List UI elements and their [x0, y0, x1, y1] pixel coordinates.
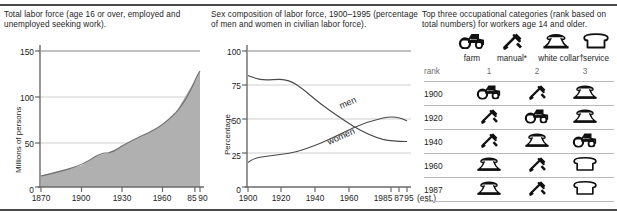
tractor-icon	[517, 108, 557, 128]
x-tick-95: 95	[400, 193, 418, 203]
sex-composition-chart: Percentage 100 75 50 25 0 men women	[211, 33, 419, 205]
occupations-row: 1960	[424, 154, 614, 178]
x-tick-1930: 1930	[107, 193, 137, 203]
occupations-legend-icons	[424, 30, 614, 54]
rank-number-2: 2	[517, 67, 557, 76]
labor-force-chart: Millions of persons 150 100 50 0	[4, 33, 209, 205]
occupations-row: 1920	[424, 106, 614, 130]
x-tick-90: 90	[195, 193, 211, 203]
series-label-men: men	[338, 94, 358, 110]
telephone-icon	[536, 30, 576, 52]
panel-labor-force: Total labor force (age 16 or over, emplo…	[4, 10, 209, 206]
occupations-row: 1900	[424, 82, 614, 106]
x-tick-1940: 1940	[300, 193, 330, 203]
series-label-women: women	[325, 126, 356, 147]
wrench-icon	[517, 84, 557, 104]
row-year: 1960	[424, 161, 443, 171]
rank-number-1: 1	[469, 67, 509, 76]
telephone-icon	[469, 156, 509, 176]
labor-force-caption: Total labor force (age 16 or over, emplo…	[4, 10, 209, 31]
telephone-icon	[565, 108, 605, 128]
occupations-rows: 19001920194019601987	[424, 82, 614, 202]
occupations-caption: Top three occupational categories (rank …	[422, 10, 614, 31]
bread-icon	[565, 156, 605, 176]
rank-row-label: rank	[424, 67, 440, 76]
occupations-row: 1987	[424, 178, 614, 202]
wrench-icon	[517, 156, 557, 176]
tractor-icon	[469, 84, 509, 104]
sex-composition-caption: Sex composition of labor force, 1900–199…	[211, 10, 419, 31]
panel-sex-composition: Sex composition of labor force, 1900–199…	[211, 10, 419, 206]
x-tick-1900: 1900	[66, 193, 96, 203]
top-rule	[0, 4, 617, 6]
x-tick-1960: 1960	[334, 193, 364, 203]
tractor-icon	[565, 132, 605, 152]
wrench-icon	[469, 132, 509, 152]
telephone-icon	[565, 84, 605, 104]
tractor-icon	[452, 30, 492, 52]
labor-force-plot-area	[4, 33, 209, 205]
row-year: 1940	[424, 137, 443, 147]
x-tick-1900: 1900	[233, 193, 263, 203]
bottom-rule	[0, 209, 617, 211]
figure-sheet: Total labor force (age 16 or over, emplo…	[0, 0, 617, 216]
rank-number-3: 3	[565, 67, 605, 76]
bread-icon	[565, 180, 605, 200]
wrench-icon	[517, 180, 557, 200]
occupations-rank-row: rank 1 2 3	[424, 66, 614, 82]
x-tick-1920: 1920	[266, 193, 296, 203]
row-year: 1987	[424, 185, 443, 195]
wrench-icon	[492, 30, 532, 52]
panel-occupations: Top three occupational categories (rank …	[422, 10, 614, 206]
x-tick-1960: 1960	[147, 193, 177, 203]
occupations-legend-labels: farm manual* white collar† service	[424, 54, 614, 66]
telephone-icon	[517, 132, 557, 152]
x-tick-1870: 1870	[26, 193, 56, 203]
row-year: 1900	[424, 89, 443, 99]
wrench-icon	[469, 108, 509, 128]
occupations-row: 1940	[424, 130, 614, 154]
sex-composition-plot-area: men women	[211, 33, 419, 205]
legend-label-service: service	[574, 54, 617, 63]
row-year: 1920	[424, 113, 443, 123]
telephone-icon	[469, 180, 509, 200]
bread-icon	[576, 30, 616, 52]
occupations-table: farm manual* white collar† service rank …	[424, 30, 614, 202]
